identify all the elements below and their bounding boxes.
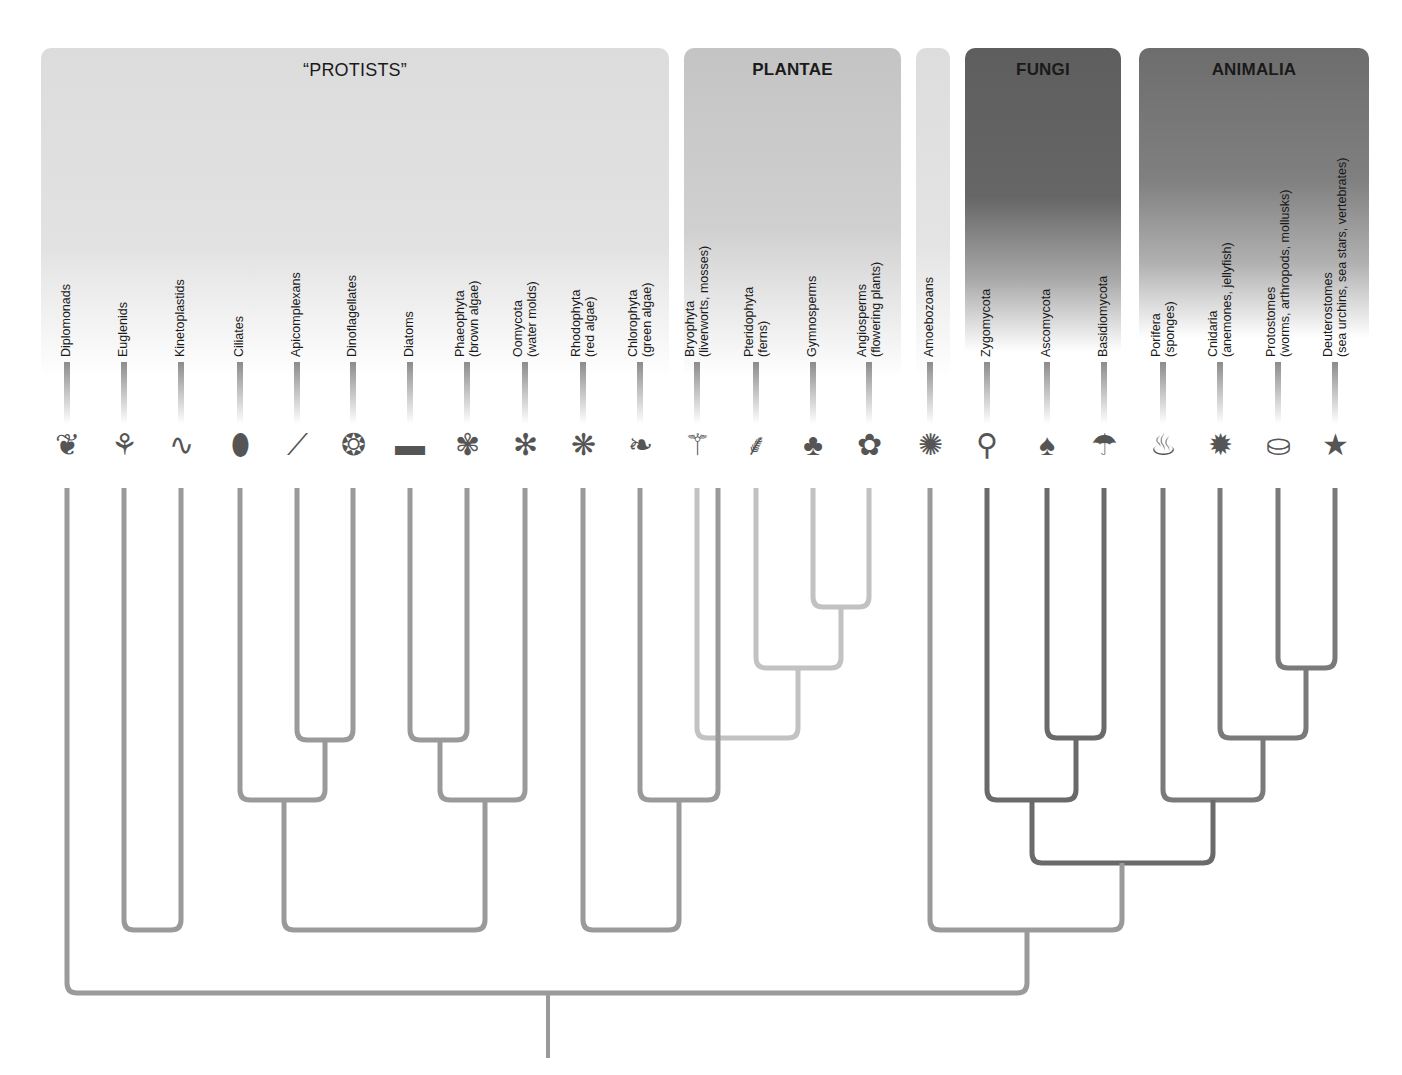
clade-archaeplastida (583, 488, 679, 930)
clade-seed-plants (813, 488, 869, 607)
phylogenetic-tree (0, 0, 1402, 1075)
clade-stramenopile (440, 488, 525, 800)
clade-chromalveolate (284, 800, 485, 930)
clade-eumetazoa (1220, 488, 1306, 738)
clade-dikarya (1047, 488, 1104, 738)
clade-metazoa (1163, 488, 1263, 800)
clade-euglenozoa (124, 488, 181, 930)
clade-alveolate (240, 488, 325, 800)
clade-land-plants (697, 488, 798, 738)
clade-fungi-clade (987, 488, 1076, 800)
clade-vascular (756, 488, 841, 668)
clade-api-dino (297, 488, 353, 740)
clade-root (67, 488, 1027, 993)
clade-diatom-phaeo (410, 488, 467, 740)
clade-green-plants (640, 488, 718, 800)
clade-bilateria (1278, 488, 1335, 668)
clade-opisthokonta (1032, 800, 1213, 863)
